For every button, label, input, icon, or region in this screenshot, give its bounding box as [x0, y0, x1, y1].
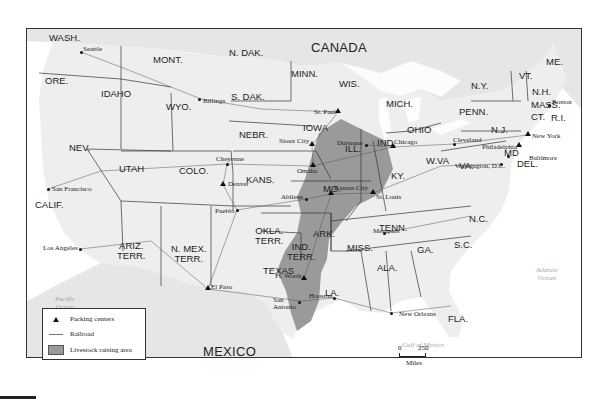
state-label-ndak: N. DAK. — [229, 48, 263, 58]
state-label-ri: R.I. — [551, 113, 566, 123]
state-label-nmex: N. MEX. TERR. — [171, 244, 206, 263]
city-label: El Paso — [211, 284, 232, 291]
city-label: Seattle — [83, 46, 102, 53]
city-label: San Antonio — [273, 297, 296, 311]
state-label-me: ME. — [546, 57, 563, 67]
city-dot-icon — [236, 209, 239, 212]
triangle-marker-icon — [48, 317, 64, 322]
city-label: Sioux City — [279, 138, 309, 145]
state-label-nh: N.H. — [532, 87, 551, 97]
state-label-utah: UTAH — [119, 164, 144, 174]
city-label: Kansas City — [334, 185, 368, 192]
state-label-ariz: ARIZ. TERR. — [117, 241, 146, 260]
state-label-wash: WASH. — [49, 33, 80, 43]
state-label-iowa: IOWA — [303, 123, 328, 133]
city-label: Houston — [309, 293, 333, 300]
city-label: St. Louis — [376, 194, 401, 201]
scale-line — [399, 353, 426, 357]
city-label: Cheyenne — [216, 156, 244, 163]
scale-unit: Miles — [406, 359, 422, 367]
legend-item-livestock-area: Livestock raising area — [48, 345, 132, 355]
state-label-nc: N.C. — [469, 214, 488, 224]
city-label: New Orleans — [399, 311, 436, 318]
state-label-kans: KANS. — [246, 175, 275, 185]
city-dot-icon — [390, 312, 393, 315]
state-label-ohio: OHIO — [407, 125, 431, 135]
legend-label: Packing centers — [70, 315, 114, 323]
packing-center-marker-icon — [525, 131, 531, 136]
state-label-minn: MINN. — [291, 69, 318, 79]
legend-label: Livestock raising area — [70, 346, 132, 354]
city-dot-icon — [79, 248, 82, 251]
state-label-ark: ARK. — [313, 229, 335, 239]
state-label-nev: NEV. — [69, 143, 90, 153]
city-label: San Francisco — [52, 186, 91, 193]
city-dot-icon — [226, 163, 229, 166]
state-label-ky: KY. — [391, 171, 405, 181]
livestock-swatch-icon — [48, 345, 64, 355]
state-label-sc: S.C. — [454, 240, 472, 250]
label-atlantic-ocean: Atlantic Ocean — [527, 267, 567, 282]
scale-start: 0 — [398, 344, 402, 352]
state-label-wis: WIS. — [339, 79, 360, 89]
state-label-idaho: IDAHO — [101, 89, 131, 99]
city-label: Omaha — [297, 168, 317, 175]
legend: Packing centers Railroad Livestock raisi… — [42, 308, 146, 360]
city-dot-icon — [507, 155, 510, 158]
city-dot-icon — [548, 104, 551, 107]
state-label-colo: COLO. — [179, 166, 209, 176]
state-label-wva: W.VA — [426, 156, 449, 166]
packing-center-marker-icon — [220, 181, 226, 186]
city-dot-icon — [365, 144, 368, 147]
city-label: Baltimore — [529, 155, 557, 162]
legend-item-packing-centers: Packing centers — [48, 315, 114, 323]
label-canada: CANADA — [311, 41, 367, 54]
state-label-calif: CALIF. — [35, 200, 64, 210]
state-label-fla: FLA. — [448, 314, 468, 324]
city-label: Washington, D.C. — [455, 163, 505, 170]
state-label-vt: VT. — [519, 71, 533, 81]
railroad-line-icon — [48, 334, 64, 335]
state-label-wyo: WYO. — [166, 102, 191, 112]
state-label-miss: MISS. — [347, 243, 373, 253]
city-label: Boston — [552, 99, 572, 106]
state-label-ct: CT. — [531, 112, 545, 122]
state-label-ind-terr: IND. TERR. — [287, 242, 316, 261]
city-dot-icon — [298, 301, 301, 304]
city-label: Chicago — [394, 139, 417, 146]
scale-end: 250 — [418, 344, 429, 352]
city-dot-icon — [333, 297, 336, 300]
state-label-penn: PENN. — [459, 107, 488, 117]
city-label: Philadelphia — [482, 144, 517, 151]
city-label: Billings — [203, 98, 225, 105]
city-label: St. Paul — [314, 109, 336, 116]
city-label: Denver — [228, 181, 249, 188]
state-label-ala: ALA. — [377, 263, 398, 273]
city-label: Abilene — [281, 194, 303, 201]
city-label: Ft. Worth — [275, 273, 302, 280]
state-label-mich: MICH. — [386, 99, 413, 109]
legend-item-railroad: Railroad — [48, 330, 94, 338]
city-label: New York — [532, 133, 560, 140]
city-label: Pueblo — [215, 208, 234, 215]
state-label-ore: ORE. — [45, 76, 68, 86]
state-label-nj: N.J. — [491, 125, 508, 135]
city-label: Dubuque — [337, 140, 363, 147]
legend-label: Railroad — [70, 330, 94, 338]
city-label: Memphis — [373, 228, 399, 235]
state-label-okla: OKLA. TERR. — [255, 226, 284, 245]
city-dot-icon — [47, 188, 50, 191]
city-dot-icon — [198, 98, 201, 101]
packing-center-marker-icon — [309, 141, 315, 146]
state-label-nebr: NEBR. — [239, 130, 268, 140]
city-label: Los Angeles — [43, 245, 78, 252]
city-label: Cleveland — [453, 137, 481, 144]
state-label-ga: GA. — [417, 245, 433, 255]
state-label-mont: MONT. — [153, 55, 183, 65]
state-label-sdak: S. DAK. — [231, 92, 265, 102]
state-label-ny: N.Y. — [471, 81, 488, 91]
label-mexico: MEXICO — [203, 345, 256, 358]
city-dot-icon — [305, 198, 308, 201]
